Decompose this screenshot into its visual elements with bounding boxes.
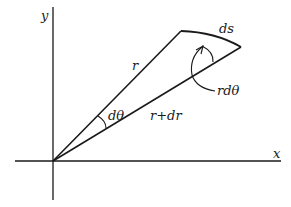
radius-r — [53, 31, 181, 161]
d-theta-label: dθ — [108, 108, 124, 123]
ds-label: ds — [219, 21, 234, 36]
d-theta-arc — [98, 116, 106, 128]
y-axis-label: y — [40, 8, 49, 23]
radius-r-plus-dr — [53, 47, 241, 161]
r-plus-dr-label: r+dr — [150, 108, 182, 123]
r-d-theta-arc — [202, 46, 213, 62]
r-d-theta-label: rdθ — [217, 83, 240, 98]
polar-arc-diagram: y x r r+dr dθ ds rdθ — [0, 0, 291, 207]
x-axis-label: x — [273, 146, 281, 161]
r-label: r — [132, 58, 139, 73]
